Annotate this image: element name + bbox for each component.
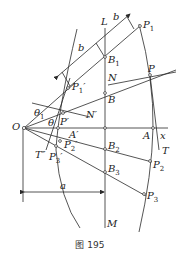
- label-N: N: [108, 73, 117, 83]
- label-P2p: P2′: [64, 140, 77, 153]
- label-P1p: P1′: [72, 82, 85, 95]
- ray-to-P3: [24, 128, 146, 196]
- figure-195: O L M x P1 P1′ B1 N P B N′ P′ θ1 θ A′ A …: [0, 0, 180, 254]
- point-P: [149, 74, 152, 77]
- label-x: x: [160, 131, 166, 141]
- point-A: [152, 127, 155, 130]
- tangent-T: [150, 75, 159, 150]
- point-P1p: [67, 87, 70, 90]
- point-LM-x: [104, 127, 107, 130]
- ext-b1: [62, 72, 70, 86]
- label-P: P: [148, 64, 155, 74]
- point-Ap: [57, 127, 60, 130]
- label-P2: P2: [153, 160, 164, 173]
- label-Tpp: T″: [35, 150, 45, 160]
- point-P2: [149, 160, 152, 163]
- point-B1: [104, 56, 107, 59]
- label-theta1: θ1: [34, 108, 45, 121]
- label-B1: B1: [108, 55, 120, 68]
- point-B: [104, 92, 107, 95]
- label-P1: P1: [143, 20, 154, 33]
- point-P2p: [59, 140, 62, 143]
- point-Pp: [62, 112, 65, 115]
- label-A: A: [143, 131, 150, 141]
- label-L: L: [101, 17, 108, 27]
- label-O: O: [12, 122, 20, 132]
- point-B3: [104, 171, 107, 174]
- geometry-drawing: [0, 0, 180, 254]
- label-B2: B2: [108, 141, 120, 154]
- ext-b3: [126, 15, 134, 29]
- point-P3p: [55, 145, 58, 148]
- label-B3: B3: [108, 164, 120, 177]
- point-O: [22, 126, 25, 129]
- label-P3: P3: [147, 191, 158, 204]
- label-M: M: [107, 219, 117, 229]
- label-b-top: b: [113, 12, 119, 22]
- label-b-mid: b: [78, 43, 84, 53]
- label-theta: θ: [48, 118, 54, 128]
- ext-b2: [96, 43, 104, 56]
- label-Np: N′: [86, 110, 97, 120]
- label-P3p: P3′: [49, 152, 62, 165]
- point-B2: [104, 148, 107, 151]
- label-T: T: [162, 146, 169, 156]
- figure-caption: 图 195: [0, 238, 180, 251]
- point-P3: [143, 193, 146, 196]
- label-Pp: P′: [60, 117, 69, 127]
- label-a: a: [60, 181, 66, 191]
- label-B: B: [108, 95, 115, 105]
- point-P1: [139, 25, 142, 28]
